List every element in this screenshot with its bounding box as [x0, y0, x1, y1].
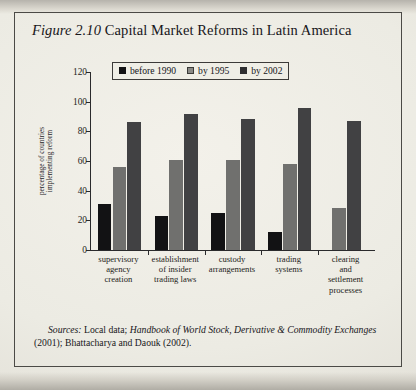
x-axis-category-label-line: clearing [308, 254, 383, 264]
y-axis-title-line-1: percentage of countries [38, 86, 46, 236]
bar [347, 121, 361, 250]
plot-area: 020406080100120 [90, 72, 375, 251]
y-axis-tick-label: 100 [51, 97, 87, 107]
legend-label-by-1995: by 1995 [198, 65, 229, 76]
bar-group [318, 72, 375, 250]
bar-group [91, 72, 148, 250]
figure-number: Figure 2.10 [32, 22, 101, 38]
page-shadow-bottom [0, 372, 416, 390]
y-axis-tick-label: 40 [51, 186, 87, 196]
bar-group [205, 72, 262, 250]
legend-item-before-1990: before 1990 [119, 65, 176, 76]
y-axis-tick-mark [86, 250, 91, 251]
y-axis-tick-label: 120 [51, 67, 87, 77]
y-axis-tick-mark [86, 191, 91, 192]
bar [241, 119, 255, 250]
bar-group [148, 72, 205, 250]
chart-legend: before 1990 by 1995 by 2002 [112, 62, 289, 80]
bar [98, 204, 112, 250]
source-prefix: Sources: [48, 324, 82, 335]
legend-label-by-2002: by 2002 [251, 65, 282, 76]
bar [268, 232, 282, 250]
source-note: Sources: Local data; Handbook of World S… [34, 324, 382, 349]
bar [169, 160, 183, 250]
figure-title-text: Capital Market Reforms in Latin America [105, 22, 352, 38]
source-text-2: (2001); Bhattacharya and Daouk (2002). [34, 337, 191, 348]
bar [332, 208, 346, 250]
bar [298, 108, 312, 250]
figure-title: Figure 2.10 Capital Market Reforms in La… [32, 22, 382, 39]
bar-group [261, 72, 318, 250]
legend-item-by-1995: by 1995 [187, 65, 229, 76]
y-axis-tick-mark [86, 72, 91, 73]
x-axis-category-label-line: processes [308, 285, 383, 295]
bar [155, 216, 169, 250]
bar [283, 164, 297, 250]
x-axis-category-label: clearingandsettlementprocesses [308, 254, 383, 295]
bar [184, 114, 198, 250]
bar [113, 167, 127, 250]
scanned-page: Figure 2.10 Capital Market Reforms in La… [0, 0, 416, 390]
bar [226, 160, 240, 250]
source-title-italic: Handbook of World Stock, Derivative & Co… [130, 324, 377, 335]
plot-inner [91, 72, 375, 250]
legend-swatch-icon-before-1990 [119, 67, 126, 74]
y-axis-tick-mark [86, 161, 91, 162]
legend-label-before-1990: before 1990 [130, 65, 176, 76]
y-axis-tick-label: 80 [51, 126, 87, 136]
y-axis-tick-mark [86, 102, 91, 103]
x-axis-category-label-line: trading laws [138, 274, 213, 284]
source-text-1: Local data; [82, 324, 130, 335]
legend-item-by-2002: by 2002 [240, 65, 282, 76]
x-axis-category-label-line: settlement [308, 274, 383, 284]
bar [127, 122, 141, 250]
y-axis-tick-mark [86, 131, 91, 132]
legend-swatch-icon-by-2002 [240, 67, 247, 74]
y-axis-tick-label: 20 [51, 215, 87, 225]
chart: percentage of countries implementing ref… [28, 62, 388, 277]
y-axis-tick-label: 60 [51, 156, 87, 166]
y-axis-tick-mark [86, 220, 91, 221]
x-axis-category-label-line: and [308, 264, 383, 274]
bar [211, 213, 225, 250]
legend-swatch-icon-by-1995 [187, 67, 194, 74]
